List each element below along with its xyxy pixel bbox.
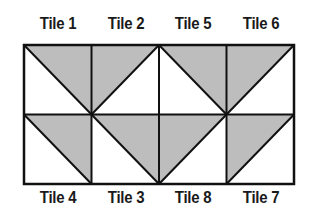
tile-label-bottom-4: Tile 7 <box>231 188 291 208</box>
tile-tile-5 <box>159 45 227 115</box>
tile-tile-3 <box>92 115 160 185</box>
tile-label-bottom-3: Tile 8 <box>163 188 223 208</box>
tile-tile-6 <box>227 45 295 115</box>
tile-label-bottom-1: Tile 4 <box>28 188 88 208</box>
tile-tile-4 <box>24 115 92 185</box>
tile-tile-7 <box>227 115 295 185</box>
tile-label-bottom-2: Tile 3 <box>96 188 156 208</box>
tile-tile-1 <box>24 45 92 115</box>
tile-tile-8 <box>159 115 227 185</box>
tile-tile-2 <box>92 45 160 115</box>
tile-grid <box>0 0 312 211</box>
